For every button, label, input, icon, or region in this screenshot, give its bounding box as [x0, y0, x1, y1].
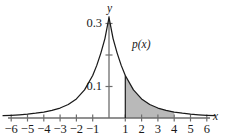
x-tick-label-6: 6 — [199, 123, 215, 136]
x-tick-label--4: −4 — [36, 123, 52, 136]
y-tick-label-0.3: 0.3 — [78, 17, 102, 30]
x-tick-label-5: 5 — [183, 123, 199, 136]
shaded-area-region — [125, 75, 174, 118]
plot-canvas — [0, 0, 228, 140]
y-axis-label: y — [107, 3, 112, 15]
x-tick-label--3: −3 — [52, 123, 68, 136]
x-tick-label-1: 1 — [117, 123, 133, 136]
x-tick-label--1: −1 — [85, 123, 101, 136]
curve-label-px: p(x) — [132, 39, 151, 51]
x-tick-label--6: −6 — [3, 123, 19, 136]
probability-density-figure: y x p(x) −6−5−4−3−2−1123456 0.10.3 — [0, 0, 228, 140]
x-tick-label-3: 3 — [150, 123, 166, 136]
y-tick-label-0.1: 0.1 — [78, 80, 102, 93]
x-axis-label: x — [213, 111, 218, 123]
x-tick-label--5: −5 — [20, 123, 36, 136]
x-tick-label--2: −2 — [68, 123, 84, 136]
x-tick-label-4: 4 — [166, 123, 182, 136]
x-tick-label-2: 2 — [134, 123, 150, 136]
